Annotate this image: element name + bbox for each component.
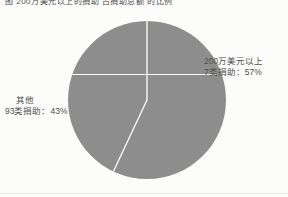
slice-label-other-donations: 其他 93类捐助：43% — [5, 95, 67, 117]
slice-label-other-donations-value: 93类捐助：43% — [5, 106, 67, 117]
slice-label-large-donations-category: 200万美元以上 — [204, 56, 263, 67]
slice-label-large-donations-value: 7类捐助：57% — [204, 67, 263, 78]
slice-label-other-donations-category: 其他 — [16, 95, 67, 106]
slice-label-large-donations: 200万美元以上 7类捐助：57% — [204, 56, 263, 78]
chart-canvas: 图 200万美元以上的捐助 占捐助总额 的比例 200万美元以上 7类捐助：57… — [0, 0, 288, 197]
page-bottom-rule — [0, 193, 288, 194]
